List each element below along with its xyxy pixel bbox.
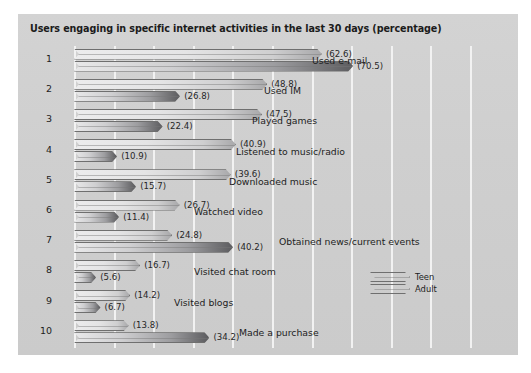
bar-row: 5(39.6)(15.7)Downloaded music	[56, 167, 508, 197]
bar-row: 2(48.8)(26.8)Used IM	[56, 76, 508, 106]
row-number: 6	[32, 204, 52, 215]
row-number: 2	[32, 83, 52, 94]
legend-label-adult: Adult	[415, 284, 437, 294]
row-number: 4	[32, 144, 52, 155]
bar-teen	[74, 230, 172, 241]
bar-value-label: (13.8)	[133, 320, 159, 330]
bar-teen	[74, 260, 140, 271]
bar-teen	[74, 290, 130, 301]
row-number: 9	[32, 295, 52, 306]
bar-adult	[74, 91, 180, 102]
chart-legend: Teen Adult	[370, 272, 450, 304]
row-number: 10	[32, 325, 52, 336]
bar-value-label: (14.2)	[134, 290, 160, 300]
bar-value-label: (11.4)	[123, 212, 149, 222]
bar-teen	[74, 139, 236, 150]
bar-teen	[74, 169, 231, 180]
bar-teen	[74, 200, 180, 211]
bar-adult	[74, 121, 163, 132]
bar-value-label: (22.4)	[167, 121, 193, 131]
category-label: Used IM	[264, 85, 301, 96]
bar-adult	[74, 272, 96, 283]
category-label: Visited blogs	[174, 297, 233, 308]
bar-adult	[74, 151, 117, 162]
bar-value-label: (34.2)	[213, 332, 239, 342]
category-label: Downloaded music	[229, 176, 317, 187]
category-label: Obtained news/current events	[279, 236, 420, 247]
chart-title: Users engaging in specific internet acti…	[30, 23, 441, 34]
bar-row: 7(24.8)(40.2)Obtained news/current event…	[56, 227, 508, 257]
bar-adult	[74, 302, 101, 313]
bar-adult	[74, 181, 136, 192]
row-number: 7	[32, 234, 52, 245]
bar-teen	[74, 49, 322, 60]
bar-row: 3(47.5)(22.4)Played games	[56, 106, 508, 136]
category-label: Used e-mail	[312, 55, 367, 66]
row-number: 8	[32, 264, 52, 275]
category-label: Visited chat room	[194, 266, 276, 277]
bar-row: 1(62.6)(70.5)Used e-mail	[56, 46, 508, 76]
bar-row: 6(26.7)(11.4)Watched video	[56, 197, 508, 227]
bar-value-label: (15.7)	[140, 181, 166, 191]
row-number: 3	[32, 113, 52, 124]
bar-row: 4(40.9)(10.9)Listened to music/radio	[56, 137, 508, 167]
legend-swatch-adult	[370, 284, 410, 294]
row-number: 1	[32, 53, 52, 64]
chart-panel: Users engaging in specific internet acti…	[18, 14, 518, 355]
legend-swatch-teen	[370, 272, 410, 282]
category-label: Made a purchase	[239, 327, 319, 338]
bar-value-label: (6.7)	[105, 302, 125, 312]
bar-value-label: (10.9)	[121, 151, 147, 161]
bar-teen	[74, 79, 267, 90]
bar-value-label: (24.8)	[176, 230, 202, 240]
bar-row: 10(13.8)(34.2)Made a purchase	[56, 318, 508, 348]
row-number: 5	[32, 174, 52, 185]
category-label: Listened to music/radio	[236, 146, 345, 157]
bar-value-label: (5.6)	[100, 272, 120, 282]
bar-value-label: (26.8)	[184, 91, 210, 101]
legend-label-teen: Teen	[415, 272, 434, 282]
bar-adult	[74, 332, 209, 343]
bar-value-label: (40.2)	[237, 242, 263, 252]
bar-teen	[74, 320, 129, 331]
bar-adult	[74, 212, 119, 223]
bar-adult	[74, 242, 233, 253]
category-label: Watched video	[194, 206, 263, 217]
category-label: Played games	[252, 115, 317, 126]
bar-teen	[74, 109, 262, 120]
bar-value-label: (16.7)	[144, 260, 170, 270]
